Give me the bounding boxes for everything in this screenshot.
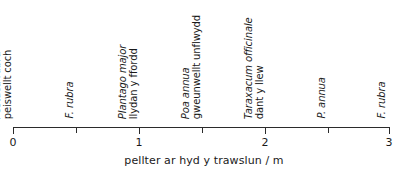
axis-tick-label-2: 2 [262,136,269,149]
axis-tick-label-1: 1 [136,136,143,149]
x-axis-title: pellter ar hyd y trawslun / m [0,154,408,167]
scientific-name: F. rubra [377,82,388,119]
common-name: gweunwellt unflwydd [191,15,202,119]
axis-tick-0-5 [76,127,77,133]
axis-tick-1-5 [202,127,203,133]
common-name: llydan y ffordd [128,45,139,119]
axis-tick-label-0: 0 [10,136,17,149]
axis-tick-2-5 [328,127,329,133]
axis-tick-label-3: 3 [386,136,393,149]
axis-tick-3 [389,127,390,134]
species-label-0: Festuca rubra peiswellt coch [0,49,13,119]
axis-tick-2 [265,127,266,134]
scientific-name: Poa annua [181,15,192,119]
axis-tick-1 [139,127,140,134]
species-label-1: F. rubra [65,82,76,119]
species-label-5: P. annua [317,78,328,119]
species-label-2: Plantago major llydan y ffordd [118,45,139,119]
common-name: peiswellt coch [2,49,13,119]
x-axis: 0 1 2 3 pellter ar hyd y trawslun / m [0,0,408,174]
axis-line [13,127,390,128]
common-name: dant y llew [254,17,265,119]
species-label-6: F. rubra [377,82,388,119]
scientific-name: Taraxacum officinale [244,17,255,119]
scientific-name: F. rubra [65,82,76,119]
species-label-3: Poa annua gweunwellt unflwydd [181,15,202,119]
scientific-name: P. annua [317,78,328,119]
transect-species-chart: Festuca rubra peiswellt coch F. rubra Pl… [0,0,408,174]
axis-tick-0 [13,127,14,134]
species-label-4: Taraxacum officinale dant y llew [244,17,265,119]
scientific-name: Plantago major [118,45,129,119]
